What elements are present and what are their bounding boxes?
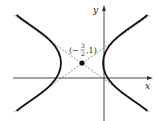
svg-text:,1): ,1) <box>86 46 97 55</box>
x-axis-arrow-icon <box>147 76 153 80</box>
hyperbola-left-branch <box>17 15 61 111</box>
svg-text:(−: (− <box>69 46 79 55</box>
svg-text:3: 3 <box>81 42 85 49</box>
y-axis-arrow-icon <box>102 5 106 11</box>
y-axis-label: y <box>92 5 99 15</box>
x-axis-label: x <box>145 81 150 91</box>
hyperbola-diagram: y x (− 3 2 ,1) <box>0 0 157 121</box>
svg-text:2: 2 <box>81 50 85 57</box>
hyperbola-right-branch <box>103 15 147 111</box>
center-label: (− 3 2 ,1) <box>69 42 97 57</box>
center-point <box>79 60 84 65</box>
